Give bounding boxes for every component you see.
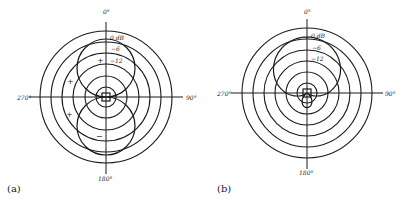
angle-label-270: 270° [16, 94, 31, 101]
polar-pattern-figure: 0° 90° 180° 270° 0 dB −6 −12 + + + − (a)… [0, 0, 409, 208]
angle-label-0: 0° [304, 8, 311, 15]
level-label-minus6: −6 [312, 44, 321, 51]
angle-label-180: 180° [299, 169, 313, 176]
level-label-minus12: −12 [110, 57, 123, 64]
polarity-sign-plus: + [66, 110, 73, 119]
polar-axes [29, 22, 183, 174]
polarity-sign-minus: − [96, 132, 103, 141]
panel-b-supercardioid-polar: 0° 90° 180° 270° 0 dB −6 −12 (b) [216, 8, 396, 194]
polar-axes [231, 19, 383, 169]
angle-label-90: 90° [186, 94, 197, 101]
level-label-0db: 0 dB [110, 34, 125, 41]
polarity-sign-plus: + [67, 77, 74, 86]
angle-label-270: 270° [216, 90, 231, 97]
panel-caption-b: (b) [217, 183, 231, 194]
angle-label-180: 180° [98, 175, 112, 182]
angle-label-90: 90° [385, 90, 396, 97]
panel-a-figure8-polar: 0° 90° 180° 270° 0 dB −6 −12 + + + − (a) [7, 8, 197, 194]
level-label-minus12: −12 [311, 55, 324, 62]
angle-label-0: 0° [103, 8, 110, 15]
level-label-minus6: −6 [111, 45, 120, 52]
level-label-0db: 0 dB [311, 32, 326, 39]
polarity-sign-plus: + [97, 56, 104, 65]
panel-caption-a: (a) [7, 183, 21, 194]
